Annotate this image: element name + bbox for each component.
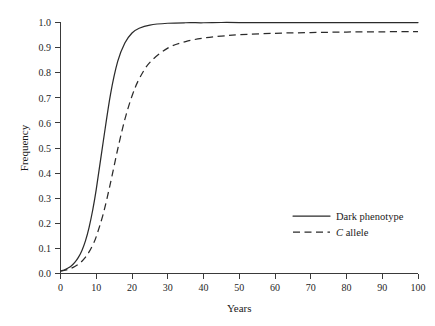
x-tick-label: 40	[199, 282, 209, 293]
y-tick-label: 0.4	[39, 168, 52, 179]
y-tick-label: 0.5	[39, 143, 52, 154]
chart-background	[0, 0, 435, 326]
x-tick-label: 100	[411, 282, 426, 293]
y-tick-label: 0.2	[39, 218, 52, 229]
x-tick-label: 50	[234, 282, 244, 293]
y-tick-label: 0.8	[39, 67, 52, 78]
legend-label-dark-phenotype: Dark phenotype	[336, 211, 404, 222]
x-tick-label: 60	[270, 282, 280, 293]
legend-label-c-allele: C allele	[336, 227, 369, 238]
x-tick-label: 70	[306, 282, 316, 293]
legend-rest-allele: allele	[343, 227, 369, 238]
y-tick-label: 0.9	[39, 42, 52, 53]
x-tick-label: 80	[342, 282, 352, 293]
y-tick-label: 0.6	[39, 118, 52, 129]
y-tick-label: 0.3	[39, 193, 52, 204]
figure-container: 0.0 0.1 0.2 0.3 0.4 0.5 0.6 0.7 0.8 0.9 …	[0, 0, 435, 326]
x-tick-label: 0	[58, 282, 63, 293]
x-axis-title: Years	[227, 302, 252, 314]
x-tick-label: 30	[163, 282, 173, 293]
x-tick-label: 10	[91, 282, 101, 293]
x-tick-label: 20	[127, 282, 137, 293]
y-tick-label: 1.0	[39, 17, 52, 28]
x-tick-label: 90	[377, 282, 387, 293]
y-tick-label: 0.7	[39, 93, 52, 104]
y-tick-label: 0.0	[39, 268, 52, 279]
y-tick-label: 0.1	[39, 243, 52, 254]
y-axis-title: Frequency	[18, 124, 30, 171]
frequency-over-years-chart: 0.0 0.1 0.2 0.3 0.4 0.5 0.6 0.7 0.8 0.9 …	[0, 0, 435, 326]
